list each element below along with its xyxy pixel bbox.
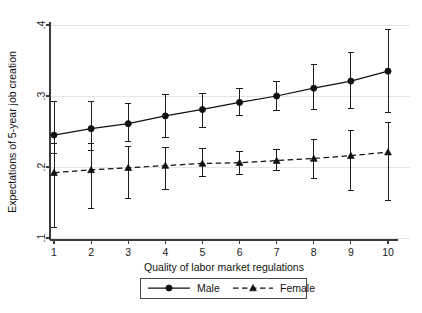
chart-canvas: .1.2.3.4 12345678910 Expectations of 5-y… <box>0 0 422 313</box>
data-point-male <box>125 121 131 127</box>
y-tick-label: .3 <box>35 91 47 100</box>
data-point-male <box>274 93 280 99</box>
legend-male-circle-icon <box>166 285 172 291</box>
legend-female-label: Female <box>280 282 315 294</box>
x-tick-label: 2 <box>88 246 94 258</box>
x-tick-label: 4 <box>162 246 168 258</box>
series-line-male <box>54 71 388 135</box>
legend-male-label: Male <box>197 282 220 294</box>
x-tick-label: 6 <box>237 246 243 258</box>
data-point-male <box>162 113 168 119</box>
data-point-male <box>236 99 242 105</box>
data-point-female <box>385 149 392 155</box>
gridlines <box>50 25 410 238</box>
x-axis-ticks: 12345678910 <box>51 240 394 258</box>
y-axis-label: Expectations of 5-year job creation <box>6 51 18 213</box>
data-point-male <box>51 132 57 138</box>
x-tick-label: 8 <box>311 246 317 258</box>
error-bars-female <box>51 123 391 227</box>
data-point-male <box>88 126 94 132</box>
y-tick-label: .2 <box>35 162 47 171</box>
chart-figure: .1.2.3.4 12345678910 Expectations of 5-y… <box>0 0 422 313</box>
data-point-male <box>385 68 391 74</box>
x-tick-label: 7 <box>274 246 280 258</box>
chart-legend: Male Female <box>140 278 315 298</box>
series-line-female <box>54 152 388 173</box>
x-tick-label: 10 <box>382 246 394 258</box>
axes <box>50 22 398 240</box>
y-tick-label: .1 <box>35 233 47 242</box>
x-tick-label: 1 <box>51 246 57 258</box>
error-bars-male <box>51 29 391 153</box>
x-tick-label: 5 <box>200 246 206 258</box>
data-point-male <box>348 78 354 84</box>
series-markers-female <box>51 149 392 176</box>
y-tick-label: .4 <box>35 20 47 29</box>
x-axis-label: Quality of labor market regulations <box>144 261 304 273</box>
y-axis-ticks: .1.2.3.4 <box>35 20 50 242</box>
x-tick-label: 3 <box>125 246 131 258</box>
data-point-male <box>199 106 205 112</box>
x-tick-label: 9 <box>348 246 354 258</box>
data-point-male <box>311 85 317 91</box>
